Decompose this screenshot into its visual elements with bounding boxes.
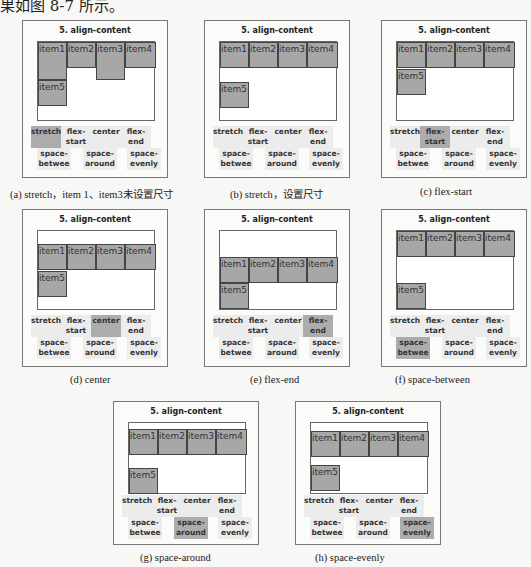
align-center-button[interactable]: center	[91, 126, 121, 148]
align-space-betwee-button[interactable]: space-betwee	[219, 337, 253, 359]
flex-container: item1item2item3item4item5	[128, 422, 246, 494]
flex-item-3: item3	[455, 42, 484, 68]
align-space-evenly-button[interactable]: space-evenly	[486, 148, 520, 170]
align-flex-end-button[interactable]: flex-end	[303, 126, 333, 148]
align-space-betwee-button[interactable]: space-betwee	[37, 148, 71, 170]
align-space-around-button[interactable]: space-around	[83, 148, 117, 170]
flex-item-1: item1	[397, 231, 426, 257]
align-flex-start-button[interactable]: flex-start	[243, 126, 273, 148]
flex-item-4: item4	[484, 231, 515, 257]
align-space-around-button[interactable]: space-around	[265, 337, 299, 359]
flex-item-3: item3	[369, 431, 398, 457]
panel-title: 5. align-content	[205, 26, 349, 35]
align-flex-end-button[interactable]: flex-end	[480, 126, 510, 148]
figure-caption: (h) space-evenly	[315, 552, 385, 563]
align-content-panel: 5. align-contentitem1item2item3item4item…	[381, 209, 527, 367]
align-flex-end-button[interactable]: flex-end	[480, 315, 510, 337]
align-space-around-button[interactable]: space-around	[442, 337, 476, 359]
align-space-betwee-button[interactable]: space-betwee	[310, 517, 344, 539]
align-space-around-button[interactable]: space-around	[356, 517, 390, 539]
align-stretch-button[interactable]: stretch	[304, 495, 334, 517]
flex-item-5: item5	[311, 465, 340, 491]
align-flex-start-button[interactable]: flex-start	[61, 315, 91, 337]
align-stretch-button[interactable]: stretch	[31, 126, 61, 148]
align-stretch-button[interactable]: stretch	[390, 126, 420, 148]
align-space-evenly-button[interactable]: space-evenly	[486, 337, 520, 359]
flex-item-5: item5	[397, 69, 426, 95]
align-flex-end-button[interactable]: flex-end	[303, 315, 333, 337]
figure-caption: (e) flex-end	[250, 374, 299, 385]
panel-title: 5. align-content	[23, 26, 167, 35]
flex-container: item1item2item3item4item5	[219, 41, 337, 121]
align-flex-end-button[interactable]: flex-end	[394, 495, 424, 517]
align-center-button[interactable]: center	[91, 315, 121, 337]
flex-item-2: item2	[426, 42, 455, 68]
align-space-evenly-button[interactable]: space-evenly	[127, 148, 161, 170]
align-space-around-button[interactable]: space-around	[265, 148, 299, 170]
flex-item-1: item1	[129, 429, 158, 455]
align-space-evenly-button[interactable]: space-evenly	[400, 517, 434, 539]
flex-item-3: item3	[278, 42, 307, 68]
figure-caption: (f) space-between	[395, 374, 470, 385]
align-flex-start-button[interactable]: flex-start	[152, 495, 182, 517]
intro-text: 果如图 8-7 所示。	[0, 0, 124, 15]
align-stretch-button[interactable]: stretch	[122, 495, 152, 517]
align-flex-end-button[interactable]: flex-end	[212, 495, 242, 517]
align-space-around-button[interactable]: space-around	[174, 517, 208, 539]
align-content-panel: 5. align-contentitem1item2item3item4item…	[22, 209, 168, 367]
align-content-panel: 5. align-contentitem1item2item3item4item…	[204, 209, 350, 367]
flex-item-5: item5	[397, 283, 426, 309]
align-center-button[interactable]: center	[450, 315, 480, 337]
align-flex-end-button[interactable]: flex-end	[121, 315, 151, 337]
flex-item-2: item2	[340, 431, 369, 457]
align-space-evenly-button[interactable]: space-evenly	[127, 337, 161, 359]
align-space-betwee-button[interactable]: space-betwee	[396, 148, 430, 170]
align-flex-start-button[interactable]: flex-start	[420, 315, 450, 337]
flex-item-3: item3	[278, 257, 307, 283]
align-center-button[interactable]: center	[273, 315, 303, 337]
flex-item-1: item1	[397, 42, 426, 68]
flex-item-2: item2	[158, 429, 187, 455]
flex-item-2: item2	[67, 42, 96, 68]
align-space-evenly-button[interactable]: space-evenly	[309, 148, 343, 170]
flex-item-2: item2	[426, 231, 455, 257]
flex-item-4: item4	[307, 42, 338, 68]
align-space-betwee-button[interactable]: space-betwee	[37, 337, 71, 359]
panel-title: 5. align-content	[114, 407, 258, 416]
align-flex-end-button[interactable]: flex-end	[121, 126, 151, 148]
align-space-betwee-button[interactable]: space-betwee	[396, 337, 430, 359]
flex-item-1: item1	[311, 431, 340, 457]
flex-item-2: item2	[67, 244, 96, 270]
align-center-button[interactable]: center	[364, 495, 394, 517]
align-space-around-button[interactable]: space-around	[442, 148, 476, 170]
align-center-button[interactable]: center	[273, 126, 303, 148]
align-space-evenly-button[interactable]: space-evenly	[218, 517, 252, 539]
figure-caption: (c) flex-start	[420, 186, 472, 197]
flex-item-3: item3	[96, 244, 125, 270]
align-space-betwee-button[interactable]: space-betwee	[219, 148, 253, 170]
panel-title: 5. align-content	[205, 215, 349, 224]
flex-item-1: item1	[38, 42, 67, 80]
align-center-button[interactable]: center	[182, 495, 212, 517]
align-flex-start-button[interactable]: flex-start	[61, 126, 91, 148]
flex-container: item1item2item3item4item5	[310, 422, 428, 494]
align-stretch-button[interactable]: stretch	[390, 315, 420, 337]
align-stretch-button[interactable]: stretch	[213, 126, 243, 148]
flex-item-4: item4	[307, 257, 338, 283]
align-center-button[interactable]: center	[450, 126, 480, 148]
align-flex-start-button[interactable]: flex-start	[334, 495, 364, 517]
flex-item-4: item4	[398, 431, 429, 457]
align-flex-start-button[interactable]: flex-start	[243, 315, 273, 337]
flex-item-5: item5	[220, 82, 249, 108]
align-space-around-button[interactable]: space-around	[83, 337, 117, 359]
align-content-panel: 5. align-contentitem1item2item3item4item…	[204, 20, 350, 178]
align-stretch-button[interactable]: stretch	[31, 315, 61, 337]
flex-item-4: item4	[125, 42, 156, 68]
align-flex-start-button[interactable]: flex-start	[420, 126, 450, 148]
panel-title: 5. align-content	[382, 215, 526, 224]
flex-item-2: item2	[249, 42, 278, 68]
flex-item-1: item1	[38, 244, 67, 270]
align-stretch-button[interactable]: stretch	[213, 315, 243, 337]
align-space-betwee-button[interactable]: space-betwee	[128, 517, 162, 539]
align-space-evenly-button[interactable]: space-evenly	[309, 337, 343, 359]
